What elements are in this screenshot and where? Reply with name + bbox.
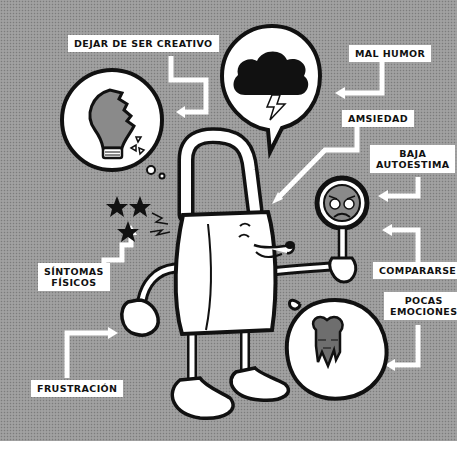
arrow-frustracion	[67, 333, 108, 378]
label-sintomas-fisicos: SÍNTOMAS FÍSICOS	[38, 263, 110, 291]
arrow-comparарse-up	[392, 230, 418, 262]
label-pocas-emociones: POCAS EMOCIONES	[384, 292, 463, 320]
label-baja-autoestima: BAJA AUTOESTIMA	[370, 145, 455, 173]
arrow-mal-humor	[345, 60, 382, 93]
broken-lightbulb-icon	[62, 70, 165, 179]
label-compararse: COMPARARSE	[373, 262, 462, 279]
label-amsiedad: AMSIEDAD	[342, 110, 414, 127]
label-mal-humor: MAL HUMOR	[349, 45, 431, 62]
arrow-autoestima	[388, 177, 418, 196]
melting-heart-icon	[287, 300, 387, 399]
label-frustracion: FRUSTRACIÓN	[31, 380, 123, 397]
arrow-creativo	[171, 56, 206, 112]
label-dejar-de-ser-creativo: DEJAR DE SER CREATIVO	[68, 35, 219, 52]
dizzy-stars-icon	[106, 196, 170, 242]
arrow-emociones	[395, 325, 418, 365]
